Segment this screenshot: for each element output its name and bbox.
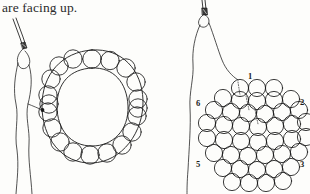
bead [248, 161, 265, 178]
bead [205, 144, 222, 161]
bead [205, 101, 222, 118]
corner-label-6: 6 [196, 99, 200, 108]
corner-label-1: 1 [248, 72, 252, 81]
bead-cluster [198, 79, 310, 191]
bead [273, 103, 290, 120]
corner-label-5: 5 [196, 160, 200, 169]
bead [282, 90, 299, 107]
beaded-hexagon-cluster-diagram [0, 0, 310, 194]
bead [274, 172, 291, 189]
bead [297, 113, 310, 130]
bead [257, 174, 274, 191]
bead [240, 174, 257, 191]
bead [223, 173, 240, 190]
thread-right [187, 15, 238, 194]
bead [290, 101, 307, 118]
corner-label-2: 2 [300, 98, 304, 107]
corner-label-3: 3 [300, 160, 304, 169]
bead [290, 143, 307, 160]
bead [273, 145, 290, 162]
dotted-thread-path [238, 82, 240, 95]
sewing-needle [202, 0, 208, 15]
bead [256, 105, 273, 122]
bead [248, 92, 265, 109]
bead [231, 91, 248, 108]
bead [248, 79, 265, 96]
illustration-page: are facing up. [0, 0, 310, 194]
